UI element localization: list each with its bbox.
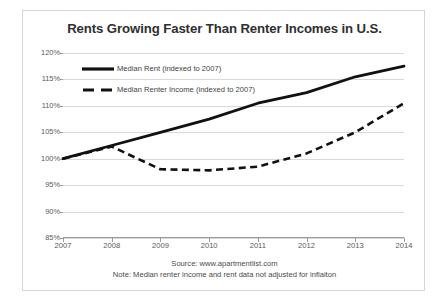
legend-label-median-renter-income: Median Renter Income (indexed to 2007)	[117, 84, 255, 94]
x-axis-tick-mark	[258, 238, 259, 242]
x-axis-tick-mark	[160, 238, 161, 242]
source-text: Source: www.apartmentlist.com	[23, 258, 426, 269]
x-axis-tick-mark	[307, 238, 308, 242]
series-line-median-renter-income	[63, 103, 404, 170]
y-axis-tick-label: 105%	[26, 127, 60, 136]
legend-item-median-rent: Median Rent (indexed to 2007)	[81, 63, 261, 75]
x-axis-tick-mark	[355, 238, 356, 242]
x-axis-tick-label: 2010	[186, 241, 232, 250]
y-axis-tick-label: 120%	[26, 48, 60, 57]
legend-dashed-line-icon	[81, 84, 115, 96]
note-text: Note: Median renter income and rent data…	[23, 269, 426, 280]
gridline	[63, 238, 404, 239]
x-axis-tick-label: 2007	[40, 241, 86, 250]
chart-frame: Rents Growing Faster Than Renter Incomes…	[22, 10, 425, 291]
y-axis-tick-label: 95%	[26, 180, 60, 189]
x-axis-tick-label: 2013	[332, 241, 378, 250]
y-axis-tick-label: 110%	[26, 101, 60, 110]
y-axis-tick-label: 115%	[26, 74, 60, 83]
x-axis-tick-mark	[63, 238, 64, 242]
legend-label-median-rent: Median Rent (indexed to 2007)	[117, 63, 221, 73]
legend-solid-line-icon	[81, 63, 115, 75]
x-axis-tick-label: 2008	[89, 241, 135, 250]
x-axis-tick-mark	[209, 238, 210, 242]
y-axis-tick-label: 100%	[26, 154, 60, 163]
chart-title: Rents Growing Faster Than Renter Incomes…	[23, 21, 426, 36]
x-axis-tick-label: 2011	[235, 241, 281, 250]
chart-footer: Source: www.apartmentlist.com Note: Medi…	[23, 258, 426, 280]
chart-legend: Median Rent (indexed to 2007) Median Ren…	[81, 63, 261, 105]
x-axis-tick-mark	[112, 238, 113, 242]
x-axis-tick-label: 2012	[284, 241, 330, 250]
y-axis-tick-label: 90%	[26, 207, 60, 216]
x-axis-tick-mark	[404, 238, 405, 242]
legend-item-median-renter-income: Median Renter Income (indexed to 2007)	[81, 84, 261, 96]
x-axis-tick-label: 2014	[381, 241, 427, 250]
x-axis-tick-label: 2009	[137, 241, 183, 250]
